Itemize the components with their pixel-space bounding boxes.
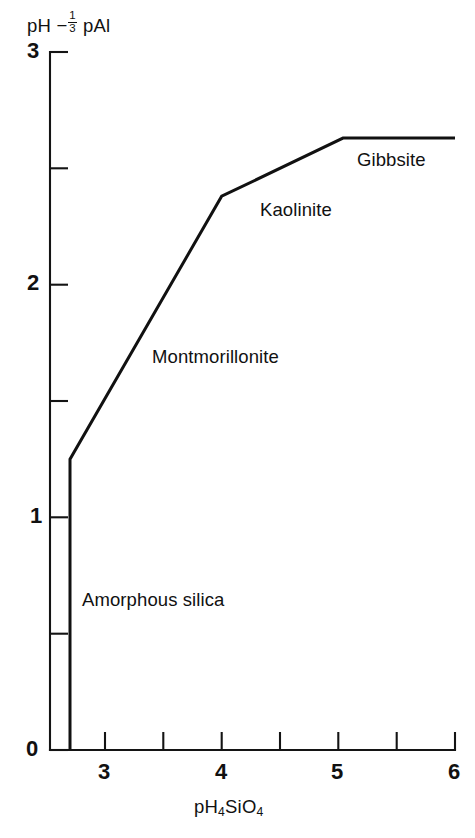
y-tick-label-0: 0	[26, 738, 38, 760]
region-label-gibbsite: Gibbsite	[357, 151, 426, 170]
x-axis-title-part2: SiO	[225, 796, 256, 817]
x-axis-title-part1: pH	[194, 796, 218, 817]
stability-diagram-figure: pH −13 pAl 3 2 1 0 3 4 5 6 pH4SiO4 Gibbs…	[0, 0, 475, 838]
y-axis-title: pH −13 pAl	[27, 10, 110, 35]
y-axis-title-minus: −	[56, 15, 67, 36]
x-tick-label-6: 6	[448, 761, 460, 783]
y-axis-title-fraction-denominator: 3	[68, 23, 76, 35]
x-axis-title: pH4SiO4	[194, 798, 264, 817]
x-axis-title-sub1: 4	[218, 805, 225, 819]
x-axis-title-sub2: 4	[257, 805, 264, 819]
y-axis-title-fraction-numerator: 1	[68, 10, 76, 23]
x-tick-label-5: 5	[331, 761, 343, 783]
y-tick-label-1: 1	[30, 505, 42, 527]
region-label-montmorillonite: Montmorillonite	[152, 348, 279, 367]
region-label-kaolinite: Kaolinite	[260, 201, 332, 220]
y-tick-label-2: 2	[27, 272, 39, 294]
plot-area	[0, 0, 475, 838]
y-tick-label-3: 3	[27, 40, 39, 62]
x-tick-label-4: 4	[215, 761, 227, 783]
x-tick-label-3: 3	[98, 761, 110, 783]
y-axis-title-prefix: pH	[27, 15, 51, 36]
y-axis-title-suffix: pAl	[83, 15, 110, 36]
mineral-boundary-curve	[70, 138, 455, 750]
region-label-amorphous-silica: Amorphous silica	[82, 591, 224, 610]
y-axis-title-fraction: 13	[68, 10, 76, 35]
